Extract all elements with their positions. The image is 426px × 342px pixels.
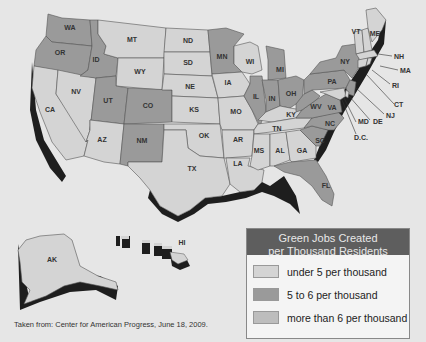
svg-text:IN: IN [269, 95, 276, 102]
svg-text:MT: MT [127, 36, 138, 43]
svg-text:TX: TX [188, 165, 197, 172]
legend-label: 5 to 6 per thousand [287, 289, 378, 301]
svg-text:AL: AL [275, 147, 285, 154]
svg-text:NH: NH [394, 53, 404, 60]
legend-item-5-to-6: 5 to 6 per thousand [247, 283, 409, 306]
state-ar [222, 130, 254, 158]
svg-text:NV: NV [71, 88, 81, 95]
legend: Green Jobs Created per Thousand Resident… [246, 228, 410, 339]
svg-text:MO: MO [230, 108, 242, 115]
svg-text:RI: RI [392, 82, 399, 89]
legend-title: Green Jobs Created per Thousand Resident… [247, 229, 409, 255]
legend-item-over-6: more than 6 per thousand [247, 306, 409, 329]
svg-text:AZ: AZ [97, 136, 107, 143]
svg-text:NC: NC [325, 120, 335, 127]
svg-text:IL: IL [253, 93, 260, 100]
legend-label: more than 6 per thousand [287, 312, 407, 324]
state-mi [266, 46, 286, 80]
svg-text:SC: SC [315, 137, 325, 144]
svg-text:NY: NY [340, 58, 350, 65]
svg-text:VA: VA [327, 104, 336, 111]
source-caption: Taken from: Center for American Progress… [14, 320, 208, 329]
svg-text:PA: PA [327, 78, 336, 85]
svg-text:MS: MS [254, 147, 265, 154]
svg-text:IA: IA [225, 79, 232, 86]
svg-text:ND: ND [183, 37, 193, 44]
svg-text:ID: ID [93, 56, 100, 63]
legend-swatch-5-to-6 [253, 288, 279, 301]
svg-text:LA: LA [233, 160, 242, 167]
svg-text:HI: HI [179, 239, 186, 246]
svg-text:NM: NM [137, 137, 148, 144]
legend-title-line2: per Thousand Residents [249, 245, 407, 258]
legend-item-under-5: under 5 per thousand [247, 260, 409, 283]
svg-text:WI: WI [246, 58, 255, 65]
svg-text:UT: UT [103, 97, 113, 104]
legend-swatch-under-5 [253, 265, 279, 278]
svg-text:NJ: NJ [386, 112, 395, 119]
legend-label: under 5 per thousand [287, 266, 387, 278]
svg-text:AK: AK [47, 256, 57, 263]
svg-text:WY: WY [134, 68, 146, 75]
svg-text:KS: KS [189, 106, 199, 113]
legend-swatch-over-6 [253, 311, 279, 324]
svg-text:KY: KY [286, 111, 296, 118]
svg-text:OR: OR [55, 49, 66, 56]
svg-text:MD: MD [358, 118, 369, 125]
svg-text:OH: OH [286, 90, 297, 97]
svg-text:CA: CA [45, 106, 55, 113]
svg-text:TN: TN [272, 125, 281, 132]
svg-text:ME: ME [370, 30, 381, 37]
svg-text:GA: GA [297, 147, 308, 154]
state-nm [120, 124, 164, 166]
svg-text:MA: MA [400, 67, 411, 74]
svg-text:FL: FL [322, 182, 331, 189]
svg-text:NE: NE [185, 83, 195, 90]
svg-text:D.C.: D.C. [354, 134, 368, 141]
svg-text:CT: CT [394, 101, 404, 108]
svg-text:MI: MI [276, 66, 284, 73]
svg-text:OK: OK [199, 132, 210, 139]
legend-title-line1: Green Jobs Created [249, 232, 407, 245]
svg-text:DE: DE [373, 118, 383, 125]
svg-text:MN: MN [217, 53, 228, 60]
svg-text:CO: CO [143, 102, 154, 109]
svg-text:WV: WV [310, 103, 322, 110]
svg-text:VT: VT [352, 28, 362, 35]
svg-text:WA: WA [64, 24, 75, 31]
svg-text:AR: AR [233, 136, 243, 143]
svg-text:SD: SD [183, 59, 193, 66]
